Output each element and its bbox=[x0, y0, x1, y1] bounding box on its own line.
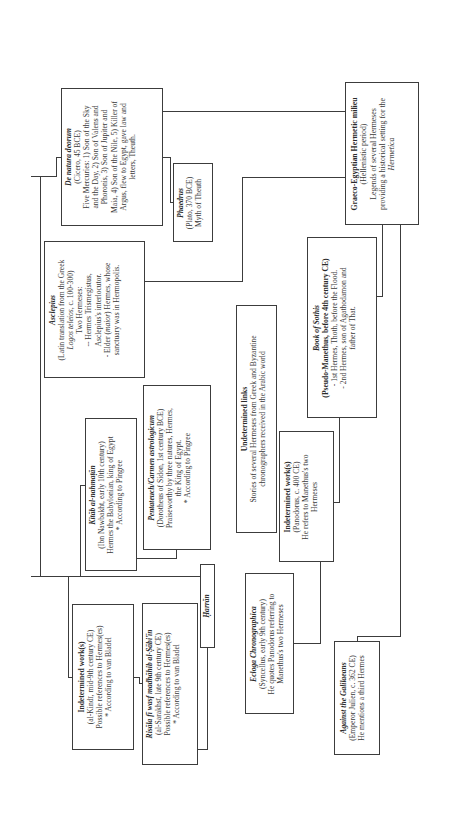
connector-line bbox=[242, 177, 345, 178]
node-against-the-galilaeans: Against the Galilaeans (Emperor Julien, … bbox=[334, 641, 380, 755]
node-title: Ecloga Chronographica bbox=[249, 575, 258, 713]
connector-line bbox=[294, 643, 321, 644]
node-line: and the Day, 2) Son of Valens and bbox=[91, 89, 100, 225]
node-subtitle: (Hellenistic period) bbox=[359, 84, 368, 224]
node-subtitle: (Pseudo-Manethus, before 4th century CE) bbox=[321, 239, 330, 417]
node-line: the King of Egypt. bbox=[174, 387, 183, 549]
node-subtitle: (al-Kindī, mid-9th century CE) bbox=[86, 606, 95, 748]
node-risala: Risāla fī wasf madhāhib al-Ṣābi'īn (al-S… bbox=[142, 603, 198, 765]
node-title: Phaedrus bbox=[176, 165, 185, 241]
node-line: Hermetica bbox=[387, 84, 396, 224]
node-title: De natura deorum bbox=[64, 89, 73, 225]
node-line: Five Mercuries: 1) Son of the Sky bbox=[82, 89, 91, 225]
node-line: Two Hermeses: bbox=[75, 243, 84, 377]
connector-line bbox=[80, 485, 81, 577]
node-line: He quotes Panodorus referring to bbox=[267, 575, 276, 713]
connector-line bbox=[40, 176, 41, 576]
node-line: Myth of Theuth bbox=[194, 165, 203, 241]
node-line: * According to Pingree bbox=[183, 387, 192, 549]
connector-line bbox=[145, 281, 242, 282]
node-subtitle: (Emperor Julien, c. 362 CE) bbox=[348, 642, 357, 754]
node-de-natura-deorum: De natura deorum (Cicero, 45 BCE) Five M… bbox=[61, 88, 163, 226]
connector-line bbox=[56, 157, 57, 177]
connector-line bbox=[170, 157, 171, 203]
node-title: Graeco-Egyptian Hermetic milieu bbox=[350, 84, 359, 224]
node-line: letters, Theuth. bbox=[128, 89, 137, 225]
node-line: Stories of several Hermeses from Greek a… bbox=[249, 307, 258, 531]
node-title: Risāla fī wasf madhāhib al-Ṣābi'īn bbox=[145, 605, 154, 763]
node-line: Argus, flew to Egypt, gave law and bbox=[119, 89, 128, 225]
node-asclepius: Asclepius (Latin translation from the Gr… bbox=[44, 241, 145, 378]
node-title: Ḥarrān bbox=[202, 566, 211, 646]
connector-line bbox=[198, 749, 208, 750]
connector-line bbox=[137, 558, 177, 559]
connector-line bbox=[207, 648, 208, 750]
node-subtitle-2: Logos teleios, c. 100-300) bbox=[66, 243, 75, 377]
node-title: Pentateuch/Carmen astrologicum bbox=[147, 387, 156, 549]
node-indetermined-panodorus: Indetermined work(s) (Panodorus, c. 400 … bbox=[279, 431, 334, 562]
connector-line bbox=[382, 225, 383, 297]
node-line: He mentions a third Hermes bbox=[357, 642, 366, 754]
node-pentateuch: Pentateuch/Carmen astrologicum (Dorotheu… bbox=[143, 385, 211, 550]
node-line: Possible references to Hermes(es) bbox=[163, 605, 172, 763]
node-line: Legends of several Hermeses bbox=[369, 84, 378, 224]
node-line: sanctuary was in Hermopolis. bbox=[111, 243, 120, 377]
node-title: Asclepius bbox=[48, 243, 57, 377]
node-line: * According to van Bladel bbox=[104, 606, 113, 748]
node-book-of-sothis: Book of Sothis (Pseudo-Manethus, before … bbox=[307, 237, 377, 418]
connector-line bbox=[68, 576, 69, 678]
node-line: Hermes the Babylonian, king of Egypt bbox=[106, 420, 115, 570]
connector-line bbox=[334, 502, 340, 503]
node-harran: Ḥarrān bbox=[200, 564, 215, 648]
node-subtitle: (Cicero, 45 BCE) bbox=[73, 89, 82, 225]
node-title: Against the Galilaeans bbox=[339, 642, 348, 754]
node-line: He refers to Manethus's two bbox=[301, 433, 310, 561]
node-line: - 2nd Hermes, son of Agathodamon and bbox=[339, 239, 348, 417]
node-phaedrus: Phaedrus (Plato, 370 BCE) Myth of Theuth bbox=[173, 163, 213, 242]
node-indetermined-alkindi: Indetermined work(s) (al-Kindī, mid-9th … bbox=[72, 604, 134, 750]
node-line: Maia, 4) Son of the Nile, 5) Killer of bbox=[110, 89, 119, 225]
node-line-elder: - Elder (maior) Hermes, whose bbox=[102, 243, 111, 377]
node-subtitle: (Ibn Nawbakht, early 10th century) bbox=[97, 420, 106, 570]
node-line: - 1st Hermes, Thoth, before the Flood. bbox=[330, 239, 339, 417]
node-undetermined-links: Undetermined links Stories of several He… bbox=[236, 305, 277, 533]
connector-line bbox=[31, 176, 57, 177]
connector-line bbox=[339, 418, 340, 503]
node-line: Asclepius's interlocutor. bbox=[93, 243, 102, 377]
node-title: Undetermined links bbox=[240, 307, 249, 531]
connector-line bbox=[320, 562, 321, 644]
node-title: Indetermined work(s) bbox=[77, 606, 86, 748]
node-line: Possible references to Hermes(es) bbox=[95, 606, 104, 748]
connector-line bbox=[163, 111, 345, 112]
node-line: chronographers received in the Arabic wo… bbox=[258, 307, 267, 531]
node-line: father of That. bbox=[348, 239, 357, 417]
node-title: Book of Sothis bbox=[312, 239, 321, 417]
node-line: Hermeses bbox=[310, 433, 319, 561]
connector-line bbox=[163, 157, 170, 158]
node-kitab-al-nahmatan: Kitāb al-nahmaṭān (Ibn Nawbakht, early 1… bbox=[85, 418, 137, 571]
node-line: Manethus's two Hermeses bbox=[276, 575, 285, 713]
node-subtitle: (Plato, 370 BCE) bbox=[185, 165, 194, 241]
node-subtitle: (Latin translation from the Greek bbox=[57, 243, 66, 377]
node-subtitle: (al-Sarakhsī, late 9th century CE) bbox=[154, 605, 163, 763]
connector-line bbox=[400, 225, 401, 636]
node-line: * According to van Bladel bbox=[172, 605, 181, 763]
node-subtitle: (Panodorus, c. 400 CE) bbox=[292, 433, 301, 561]
node-subtitle: (Syncellus, early 9th century) bbox=[258, 575, 267, 713]
node-line: * According to Pingree bbox=[115, 420, 124, 570]
connector-line bbox=[377, 296, 383, 297]
connector-line bbox=[31, 576, 201, 577]
node-line: providing a historical setting for the bbox=[378, 84, 387, 224]
node-title: Indetermined work(s) bbox=[283, 433, 292, 561]
connector-line bbox=[357, 636, 401, 637]
connector-line bbox=[242, 177, 243, 282]
node-line: -- Hermes Trismegistus, bbox=[84, 243, 93, 377]
node-line: Praiseworthy by three natures, Hermes, bbox=[165, 387, 174, 549]
node-ecloga-chronographica: Ecloga Chronographica (Syncellus, early … bbox=[245, 573, 294, 714]
node-title: Kitāb al-nahmaṭān bbox=[88, 420, 97, 570]
node-graeco-egyptian-milieu: Graeco-Egyptian Hermetic milieu (Helleni… bbox=[345, 82, 419, 225]
node-line: Phoronis, 3) Son of Jupiter and bbox=[100, 89, 109, 225]
node-subtitle: (Dorotheus of Sidon, 1st century BCE) bbox=[156, 387, 165, 549]
